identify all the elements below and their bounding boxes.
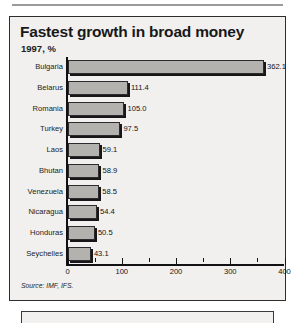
x-tick-label: 400 [278, 268, 291, 276]
category-label: Laos [9, 146, 63, 154]
bar-row: 105.0 [68, 102, 285, 116]
bar [68, 122, 121, 136]
bar [68, 185, 100, 199]
category-axis-labels: BulgariaBelarusRomaniaTurkeyLaosBhutanVe… [10, 57, 63, 265]
category-label: Seychelles [9, 250, 63, 258]
x-tick-major [285, 258, 286, 265]
x-tick-major [68, 258, 69, 265]
x-tick-major [122, 258, 123, 265]
source-note: Source: IMF, IFS. [21, 282, 73, 289]
x-tick-major [176, 258, 177, 265]
bar-value-label: 97.5 [123, 125, 138, 133]
bar [68, 102, 125, 116]
bar [68, 226, 95, 240]
x-tick-minor [95, 258, 96, 262]
bar-row: 50.5 [68, 226, 285, 240]
bar-row: 58.9 [68, 164, 285, 178]
bar-value-label: 43.1 [94, 250, 109, 258]
category-label: Nicaragua [9, 208, 63, 216]
x-tick-major [230, 258, 231, 265]
x-axis-tick-labels: 0100200300400 [10, 268, 287, 280]
category-label: Romania [9, 105, 63, 113]
bar-value-label: 58.9 [102, 167, 117, 175]
bar [68, 205, 98, 219]
bar-value-label: 105.0 [127, 105, 146, 113]
category-label: Bhutan [9, 167, 63, 175]
bar [68, 164, 100, 178]
x-tick-label: 200 [170, 268, 183, 276]
bar-value-label: 59.1 [103, 146, 118, 154]
bar-value-label: 54.4 [100, 208, 115, 216]
chart-figure: Fastest growth in broad money 1997, % Bu… [9, 16, 286, 301]
category-label: Bulgaria [9, 63, 63, 71]
bar-value-label: 50.5 [98, 229, 113, 237]
bar [68, 143, 100, 157]
bar-series: 362.1111.4105.097.559.158.958.554.450.54… [68, 57, 285, 264]
bar [68, 81, 128, 95]
x-tick-minor [203, 258, 204, 262]
x-tick-label: 300 [224, 268, 237, 276]
category-label: Venezuela [9, 188, 63, 196]
bar-row: 111.4 [68, 81, 285, 95]
bar-row: 362.1 [68, 60, 285, 74]
bar-row: 58.5 [68, 185, 285, 199]
bar-row: 97.5 [68, 122, 285, 136]
bar-value-label: 58.5 [102, 188, 117, 196]
x-tick-label: 0 [65, 268, 69, 276]
bar-row: 54.4 [68, 205, 285, 219]
bar-value-label: 111.4 [131, 84, 149, 92]
plot-area: BulgariaBelarusRomaniaTurkeyLaosBhutanVe… [10, 57, 287, 285]
bar [68, 60, 264, 74]
category-label: Belarus [9, 84, 63, 92]
x-tick-minor [257, 258, 258, 262]
x-tick-minor [149, 258, 150, 262]
bar-value-label: 362.1 [267, 63, 286, 71]
category-label: Turkey [9, 125, 63, 133]
chart-subtitle: 1997, % [21, 43, 56, 54]
page-top-rule [12, 4, 283, 6]
x-tick-label: 100 [115, 268, 128, 276]
adjacent-figure-box [21, 311, 274, 323]
x-axis-ticks [66, 258, 285, 266]
category-label: Honduras [9, 229, 63, 237]
bar-row: 59.1 [68, 143, 285, 157]
chart-title: Fastest growth in broad money [20, 23, 244, 41]
